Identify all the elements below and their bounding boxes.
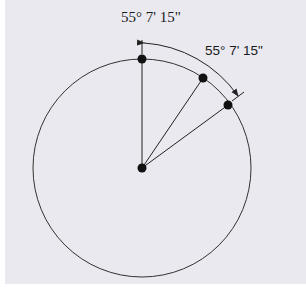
tick-right bbox=[232, 92, 244, 101]
point-right bbox=[224, 101, 233, 110]
radius-right bbox=[142, 105, 228, 168]
title-angle-label: 55° 7' 15" bbox=[121, 9, 181, 25]
circle-diagram: 55° 7' 15" 55° 7' 15" bbox=[0, 0, 306, 298]
point-top bbox=[138, 55, 147, 64]
radius-middle bbox=[142, 78, 203, 168]
point-center bbox=[138, 164, 147, 173]
point-middle bbox=[199, 74, 208, 83]
arc-angle-label: 55° 7' 15" bbox=[205, 43, 263, 58]
